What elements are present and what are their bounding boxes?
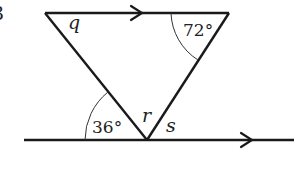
angle-label-72: 72° <box>183 20 213 40</box>
question-number: 3 <box>0 2 4 24</box>
angle-label-36: 36° <box>92 117 122 137</box>
angle-label-q: q <box>68 11 80 33</box>
geometry-diagram: 3 q 72° 36° r s <box>0 0 296 174</box>
angle-label-s: s <box>166 114 176 136</box>
angle-label-r: r <box>142 104 153 126</box>
